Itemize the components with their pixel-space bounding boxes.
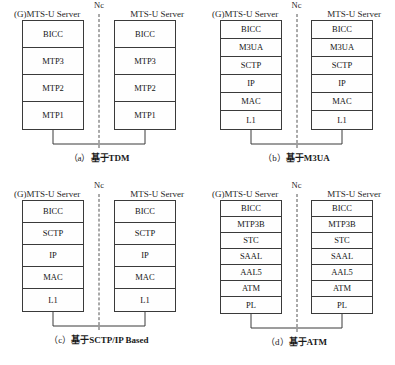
panel-d-left-stack: BICCMTP3BSTCSAALAAL5ATMPL: [220, 200, 282, 314]
panel-d-left-endpoint-label: (G)MTS-U Server: [212, 189, 278, 200]
panel-c-left-endpoint-label: (G)MTS-U Server: [14, 189, 80, 200]
panel-b-left-layer-l1: L1: [221, 111, 281, 129]
panel-a-right-endpoint-label: MTS-U Server: [130, 9, 184, 20]
panel-d-left-layer-atm: ATM: [221, 281, 281, 297]
panel-b-left-stack: BICCM3UASCTPIPMACL1: [220, 20, 282, 130]
panel-a-left-stack: BICCMTP3MTP2MTP1: [22, 20, 84, 130]
panel-d-left-layer-saal: SAAL: [221, 249, 281, 265]
panel-a-caption-index: （a）: [69, 153, 91, 163]
panel-b-stacks: BICCM3UASCTPIPMACL1BICCM3UASCTPIPMACL1: [198, 20, 395, 130]
panel-b-right-stack: BICCM3UASCTPIPMACL1: [311, 20, 373, 130]
panel-b-right-layer-mac: MAC: [312, 93, 372, 111]
panel-d-caption-text: 基于ATM: [289, 337, 327, 347]
panel-c-left-layer-sctp: SCTP: [23, 223, 83, 245]
panel-c-right-endpoint-label: MTS-U Server: [130, 189, 184, 200]
panel-a-left-layer-mtp1: MTP1: [23, 102, 83, 129]
panel-c-left-layer-ip: IP: [23, 245, 83, 267]
panel-a-right-stack: BICCMTP3MTP2MTP1: [114, 20, 176, 130]
panel-b-left-layer-sctp: SCTP: [221, 57, 281, 75]
panel-c-left-layer-l1: L1: [23, 289, 83, 311]
panel-d-bearer-connector: [198, 314, 395, 330]
panel-c-left-layer-mac: MAC: [23, 267, 83, 289]
panel-a-caption-text: 基于TDM: [91, 153, 130, 163]
panel-c-right-layer-mac: MAC: [115, 267, 175, 289]
panel-c-interface-label: Nc: [94, 180, 104, 190]
panel-a-left-layer-mtp2: MTP2: [23, 75, 83, 102]
panel-d-nc-interface-divider: [296, 194, 297, 332]
panel-d-left-layer-pl: PL: [221, 297, 281, 313]
panel-b-caption: （b）基于M3UA: [198, 152, 395, 164]
panel-d-interface-label: Nc: [292, 180, 302, 190]
panel-b-right-endpoint-label: MTS-U Server: [327, 9, 381, 20]
panel-c-nc-interface-divider: [99, 194, 100, 330]
panel-a-bearer-connector: [0, 130, 198, 146]
panel-d-left-layer-mtp3b: MTP3B: [221, 217, 281, 233]
panel-b-left-endpoint-label: (G)MTS-U Server: [212, 9, 278, 20]
panel-a-left-layer-bicc: BICC: [23, 21, 83, 48]
panel-b-caption-text: 基于M3UA: [286, 153, 330, 163]
panel-b-right-layer-ip: IP: [312, 75, 372, 93]
panel-a: (G)MTS-U ServerNcMTS-U ServerBICCMTP3MTP…: [0, 0, 198, 180]
panel-c-left-stack: BICCSCTPIPMACL1: [22, 200, 84, 312]
panel-d-right-layer-stc: STC: [312, 233, 372, 249]
panel-d-left-layer-aal5: AAL5: [221, 265, 281, 281]
panel-a-right-layer-bicc: BICC: [115, 21, 175, 48]
panel-d-caption: （d）基于ATM: [198, 336, 395, 348]
panel-c-caption: （c）基于SCTP/IP Based: [0, 334, 198, 346]
panel-c-bearer-connector: [0, 312, 198, 328]
panel-d-right-layer-bicc: BICC: [312, 201, 372, 217]
panel-b-right-layer-l1: L1: [312, 111, 372, 129]
panel-d-right-layer-atm: ATM: [312, 281, 372, 297]
panel-b-interface-label: Nc: [292, 0, 302, 10]
panel-c-stacks: BICCSCTPIPMACL1BICCSCTPIPMACL1: [0, 200, 198, 312]
panel-b: (G)MTS-U ServerNcMTS-U ServerBICCM3UASCT…: [198, 0, 395, 180]
panel-d: (G)MTS-U ServerNcMTS-U ServerBICCMTP3BST…: [198, 180, 395, 365]
panel-b-right-layer-bicc: BICC: [312, 21, 372, 39]
panel-a-right-layer-mtp1: MTP1: [115, 102, 175, 129]
panel-c-right-layer-l1: L1: [115, 289, 175, 311]
panel-c-caption-index: （c）: [49, 335, 71, 345]
panel-b-caption-index: （b）: [263, 153, 286, 163]
panel-a-right-layer-mtp2: MTP2: [115, 75, 175, 102]
panel-c-left-layer-bicc: BICC: [23, 201, 83, 223]
panel-d-stacks: BICCMTP3BSTCSAALAAL5ATMPLBICCMTP3BSTCSAA…: [198, 200, 395, 314]
panel-c-right-layer-sctp: SCTP: [115, 223, 175, 245]
panel-b-left-layer-m3ua: M3UA: [221, 39, 281, 57]
panel-c-right-stack: BICCSCTPIPMACL1: [114, 200, 176, 312]
panel-b-left-layer-bicc: BICC: [221, 21, 281, 39]
panel-b-right-layer-m3ua: M3UA: [312, 39, 372, 57]
panel-c-caption-text: 基于SCTP/IP Based: [71, 335, 148, 345]
panel-a-stacks: BICCMTP3MTP2MTP1BICCMTP3MTP2MTP1: [0, 20, 198, 130]
panel-c-right-layer-ip: IP: [115, 245, 175, 267]
panel-a-nc-interface-divider: [99, 14, 100, 148]
panel-a-caption: （a）基于TDM: [0, 152, 198, 164]
panel-d-right-layer-aal5: AAL5: [312, 265, 372, 281]
panel-b-right-layer-sctp: SCTP: [312, 57, 372, 75]
panel-a-right-layer-mtp3: MTP3: [115, 48, 175, 75]
panel-c: (G)MTS-U ServerNcMTS-U ServerBICCSCTPIPM…: [0, 180, 198, 365]
panel-d-left-layer-bicc: BICC: [221, 201, 281, 217]
panel-b-nc-interface-divider: [296, 14, 297, 148]
panel-a-left-endpoint-label: (G)MTS-U Server: [14, 9, 80, 20]
panel-c-right-layer-bicc: BICC: [115, 201, 175, 223]
panel-a-left-layer-mtp3: MTP3: [23, 48, 83, 75]
panel-d-right-layer-mtp3b: MTP3B: [312, 217, 372, 233]
panel-d-left-layer-stc: STC: [221, 233, 281, 249]
panel-a-interface-label: Nc: [94, 0, 104, 10]
protocol-stack-figure: (G)MTS-U ServerNcMTS-U ServerBICCMTP3MTP…: [0, 0, 395, 365]
panel-b-bearer-connector: [198, 130, 395, 146]
panel-d-right-stack: BICCMTP3BSTCSAALAAL5ATMPL: [311, 200, 373, 314]
panel-d-caption-index: （d）: [266, 337, 289, 347]
panel-d-right-layer-pl: PL: [312, 297, 372, 313]
panel-d-right-layer-saal: SAAL: [312, 249, 372, 265]
panel-b-left-layer-mac: MAC: [221, 93, 281, 111]
panel-b-left-layer-ip: IP: [221, 75, 281, 93]
panel-d-right-endpoint-label: MTS-U Server: [327, 189, 381, 200]
